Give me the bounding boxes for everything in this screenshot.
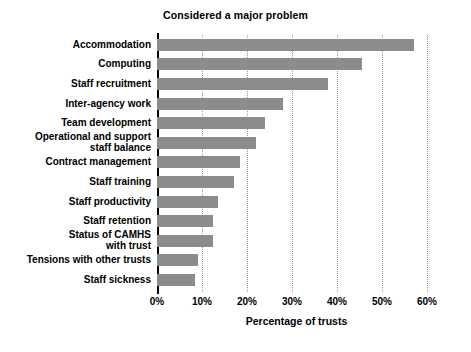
bar <box>157 215 213 227</box>
bar-fill <box>157 137 256 149</box>
bar <box>157 58 362 70</box>
bar <box>157 274 195 286</box>
gridline-30 <box>292 35 293 292</box>
gridline-60 <box>427 35 428 292</box>
bar-fill <box>157 215 213 227</box>
bar <box>157 176 234 188</box>
bar-fill <box>157 156 240 168</box>
category-label: Staff productivity <box>69 196 151 207</box>
bar-fill <box>157 274 195 286</box>
category-label: Team development <box>61 117 151 128</box>
category-label: Staff training <box>89 176 151 187</box>
bar <box>157 196 218 208</box>
bar-fill <box>157 39 414 51</box>
x-tick-label: 20% <box>227 296 267 307</box>
bar <box>157 117 265 129</box>
category-label: Staff recruitment <box>71 78 151 89</box>
bar-chart: Considered a major problem Percentage of… <box>0 0 471 352</box>
category-label: Computing <box>98 58 151 69</box>
bar <box>157 156 240 168</box>
category-label: Staff sickness <box>84 274 151 285</box>
category-label: Tensions with other trusts <box>27 254 151 265</box>
x-tick-label: 40% <box>317 296 357 307</box>
x-axis-title: Percentage of trusts <box>157 315 436 327</box>
x-tick-label: 60% <box>407 296 447 307</box>
bar-fill <box>157 254 198 266</box>
bar <box>157 39 414 51</box>
category-label: Operational and support staff balance <box>35 131 151 153</box>
x-tick-label: 10% <box>182 296 222 307</box>
gridline-20 <box>247 35 248 292</box>
x-tick-label: 0% <box>137 296 177 307</box>
category-label: Inter-agency work <box>65 98 151 109</box>
bar-fill <box>157 176 234 188</box>
bar <box>157 137 256 149</box>
category-label: Status of CAMHS with trust <box>69 229 151 251</box>
bar-fill <box>157 196 218 208</box>
category-label: Staff retention <box>83 215 151 226</box>
bar-fill <box>157 117 265 129</box>
gridline-50 <box>382 35 383 292</box>
bar-fill <box>157 78 328 90</box>
bar-fill <box>157 235 213 247</box>
category-label: Contract management <box>45 156 151 167</box>
category-label: Accommodation <box>73 39 151 50</box>
bar <box>157 235 213 247</box>
bar-fill <box>157 98 283 110</box>
x-tick-label: 30% <box>272 296 312 307</box>
bar <box>157 78 328 90</box>
chart-title: Considered a major problem <box>0 9 471 21</box>
bar <box>157 98 283 110</box>
bar <box>157 254 198 266</box>
x-tick-label: 50% <box>362 296 402 307</box>
gridline-40 <box>337 35 338 292</box>
bar-fill <box>157 58 362 70</box>
